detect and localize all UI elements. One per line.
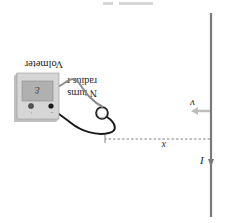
distance-marker: x: [105, 135, 210, 151]
distance-label: x: [161, 140, 167, 151]
negative-lead: [51, 106, 115, 134]
plus-sign: +: [30, 110, 33, 115]
induction-diagram: I v x N turns radius r: [0, 0, 231, 223]
current-arrow-icon: [208, 159, 214, 167]
current-label: I: [199, 155, 205, 167]
voltmeter-label: Volmeter: [24, 59, 63, 70]
velocity-label: v: [190, 98, 195, 110]
minus-sign: −: [50, 110, 53, 115]
coil: [96, 107, 108, 119]
positive-terminal: [28, 103, 33, 108]
voltmeter: ℰ − + Volmeter: [14, 59, 63, 122]
coil-turns-label: N turns: [67, 88, 97, 99]
current-wire: I: [199, 13, 214, 217]
caption-fragment: [103, 2, 153, 5]
negative-terminal: [48, 103, 53, 108]
velocity-arrow: v: [190, 98, 210, 115]
